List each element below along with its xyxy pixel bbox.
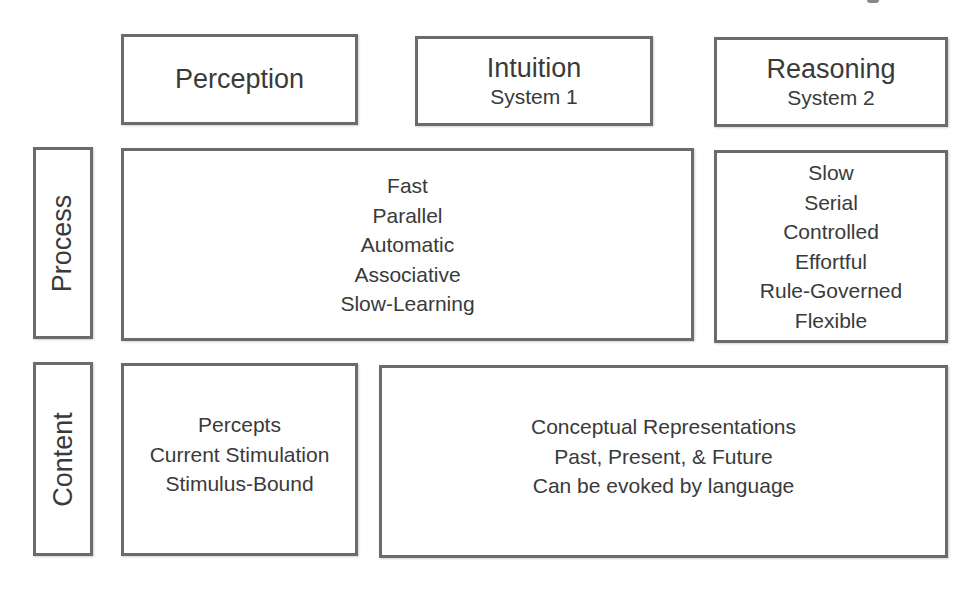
column-header-reasoning: Reasoning System 2 (714, 37, 948, 127)
column-title: Reasoning (766, 54, 895, 85)
cell-process-system1: Fast Parallel Automatic Associative Slow… (121, 148, 694, 341)
row-label-process: Process (33, 147, 93, 339)
cropped-text-fragment (867, 0, 879, 3)
row-label-text: Content (48, 412, 79, 507)
cell-line: Effortful (795, 247, 867, 277)
cell-line: Can be evoked by language (533, 471, 795, 501)
cell-lines: Percepts Current Stimulation Stimulus-Bo… (150, 410, 330, 499)
cell-line: Serial (804, 188, 858, 218)
column-header-intuition: Intuition System 1 (415, 36, 653, 126)
cell-line: Slow-Learning (340, 289, 474, 319)
cell-content-conceptual: Conceptual Representations Past, Present… (379, 365, 948, 558)
column-subtitle: System 2 (787, 85, 875, 110)
cell-line: Slow (808, 158, 854, 188)
column-title: Perception (175, 64, 304, 95)
cell-line: Current Stimulation (150, 440, 330, 470)
cell-line: Controlled (783, 217, 879, 247)
cell-line: Parallel (372, 201, 442, 231)
column-title: Intuition (487, 53, 582, 84)
column-header-perception: Perception (121, 34, 358, 125)
cell-content-perception: Percepts Current Stimulation Stimulus-Bo… (121, 363, 358, 556)
cell-line: Flexible (795, 306, 867, 336)
cell-lines: Slow Serial Controlled Effortful Rule-Go… (760, 158, 902, 335)
cell-line: Fast (387, 171, 428, 201)
cell-line: Automatic (361, 230, 454, 260)
cell-line: Conceptual Representations (531, 412, 796, 442)
cell-line: Rule-Governed (760, 276, 902, 306)
cell-line: Past, Present, & Future (554, 442, 772, 472)
cell-lines: Fast Parallel Automatic Associative Slow… (340, 171, 474, 319)
cell-line: Associative (354, 260, 460, 290)
cell-lines: Conceptual Representations Past, Present… (531, 412, 796, 501)
column-subtitle: System 1 (490, 84, 578, 109)
cell-line: Stimulus-Bound (165, 469, 313, 499)
row-label-content: Content (33, 362, 93, 556)
cell-process-system2: Slow Serial Controlled Effortful Rule-Go… (714, 150, 948, 343)
row-label-text: Process (48, 194, 79, 292)
cell-line: Percepts (198, 410, 281, 440)
